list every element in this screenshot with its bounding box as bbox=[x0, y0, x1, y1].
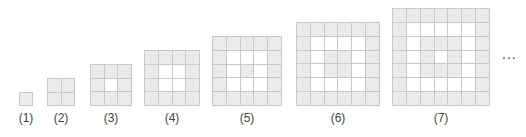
grid-cell bbox=[435, 92, 449, 106]
grid-cell bbox=[62, 79, 76, 93]
grid-cell bbox=[421, 23, 435, 37]
grid-cell bbox=[393, 9, 407, 23]
grid-cell bbox=[407, 9, 421, 23]
grid-cell bbox=[173, 92, 187, 106]
grid-cell bbox=[241, 92, 255, 106]
grid-cell bbox=[448, 78, 462, 92]
figure-4-label: (4) bbox=[165, 111, 180, 125]
grid-cell bbox=[407, 23, 421, 37]
grid-cell bbox=[254, 92, 268, 106]
grid-cell bbox=[366, 23, 380, 37]
grid-cell bbox=[462, 78, 476, 92]
grid-cell bbox=[393, 64, 407, 78]
grid-cell bbox=[448, 92, 462, 106]
grid-cell bbox=[48, 79, 62, 93]
grid-cell bbox=[435, 64, 449, 78]
grid-cell bbox=[366, 92, 380, 106]
grid-cell bbox=[338, 64, 352, 78]
grid-cell bbox=[421, 64, 435, 78]
figure-3-grid bbox=[90, 64, 132, 106]
grid-cell bbox=[311, 23, 325, 37]
figure-6-label: (6) bbox=[331, 111, 346, 125]
grid-cell bbox=[268, 92, 282, 106]
grid-cell bbox=[173, 51, 187, 65]
grid-cell bbox=[462, 64, 476, 78]
grid-cell bbox=[213, 37, 227, 51]
grid-cell bbox=[338, 23, 352, 37]
grid-cell bbox=[421, 92, 435, 106]
grid-cell bbox=[227, 37, 241, 51]
grid-cell bbox=[105, 92, 119, 106]
grid-cell bbox=[325, 78, 339, 92]
grid-cell bbox=[476, 37, 490, 51]
grid-cell bbox=[105, 79, 119, 93]
grid-cell bbox=[159, 51, 173, 65]
grid-cell bbox=[227, 78, 241, 92]
grid-cell bbox=[311, 51, 325, 65]
grid-cell bbox=[241, 51, 255, 65]
grid-cell bbox=[186, 92, 200, 106]
grid-cell bbox=[145, 79, 159, 93]
grid-cell bbox=[159, 92, 173, 106]
grid-cell bbox=[407, 64, 421, 78]
grid-cell bbox=[241, 37, 255, 51]
figure-3-label: (3) bbox=[104, 111, 119, 125]
grid-cell bbox=[435, 37, 449, 51]
grid-cell bbox=[254, 37, 268, 51]
grid-cell bbox=[325, 92, 339, 106]
grid-cell bbox=[407, 78, 421, 92]
grid-cell bbox=[227, 51, 241, 65]
grid-cell bbox=[186, 79, 200, 93]
grid-cell bbox=[145, 92, 159, 106]
grid-cell bbox=[297, 37, 311, 51]
grid-cell bbox=[421, 37, 435, 51]
grid-cell bbox=[393, 78, 407, 92]
grid-cell bbox=[476, 23, 490, 37]
grid-cell bbox=[173, 65, 187, 79]
grid-cell bbox=[393, 92, 407, 106]
grid-cell bbox=[20, 93, 33, 106]
grid-cell bbox=[268, 65, 282, 79]
grid-cell bbox=[448, 9, 462, 23]
figure-5-grid bbox=[212, 36, 282, 106]
grid-cell bbox=[352, 23, 366, 37]
grid-cell bbox=[145, 65, 159, 79]
grid-cell bbox=[352, 64, 366, 78]
grid-cell bbox=[268, 37, 282, 51]
grid-cell bbox=[186, 65, 200, 79]
grid-cell bbox=[462, 37, 476, 51]
figure-2-label: (2) bbox=[54, 111, 69, 125]
grid-cell bbox=[338, 78, 352, 92]
grid-cell bbox=[366, 37, 380, 51]
grid-cell bbox=[352, 78, 366, 92]
grid-cell bbox=[366, 51, 380, 65]
grid-cell bbox=[213, 51, 227, 65]
grid-cell bbox=[91, 65, 105, 79]
grid-cell bbox=[421, 9, 435, 23]
grid-cell bbox=[407, 92, 421, 106]
grid-cell bbox=[241, 65, 255, 79]
grid-cell bbox=[325, 37, 339, 51]
grid-cell bbox=[213, 78, 227, 92]
grid-cell bbox=[448, 23, 462, 37]
grid-cell bbox=[476, 51, 490, 65]
figure-6-grid bbox=[296, 22, 380, 106]
grid-cell bbox=[435, 9, 449, 23]
grid-cell bbox=[48, 93, 62, 107]
figure-4-grid bbox=[144, 50, 200, 106]
figure-5-label: (5) bbox=[240, 111, 255, 125]
grid-cell bbox=[254, 65, 268, 79]
grid-cell bbox=[186, 51, 200, 65]
figure-1-grid bbox=[19, 92, 33, 106]
grid-cell bbox=[393, 51, 407, 65]
grid-cell bbox=[227, 92, 241, 106]
grid-cell bbox=[393, 23, 407, 37]
grid-cell bbox=[254, 78, 268, 92]
grid-cell bbox=[366, 64, 380, 78]
grid-cell bbox=[297, 92, 311, 106]
grid-cell bbox=[338, 37, 352, 51]
continuation-ellipsis: ... bbox=[502, 46, 517, 62]
grid-cell bbox=[213, 92, 227, 106]
grid-cell bbox=[91, 79, 105, 93]
grid-cell bbox=[407, 37, 421, 51]
